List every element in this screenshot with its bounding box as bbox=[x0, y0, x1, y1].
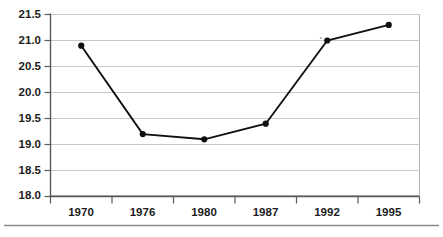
y-axis-ticks bbox=[45, 15, 51, 197]
line-chart: 21.5 21.0 20.5 20.0 19.5 19.0 18.5 18.0 … bbox=[0, 0, 443, 237]
y-axis-label-18-0: 18.0 bbox=[19, 189, 41, 201]
x-axis-label-1976: 1976 bbox=[130, 206, 156, 218]
y-axis-label-20-5: 20.5 bbox=[19, 60, 42, 72]
data-point-1976 bbox=[140, 131, 146, 137]
x-axis-tick-labels: 1970 1976 1980 1987 1992 1995 bbox=[68, 206, 402, 218]
chart-figure: 21.5 21.0 20.5 20.0 19.5 19.0 18.5 18.0 … bbox=[0, 0, 443, 237]
y-axis-label-19-0: 19.0 bbox=[19, 138, 41, 150]
x-axis-label-1970: 1970 bbox=[68, 206, 94, 218]
x-axis-label-1995: 1995 bbox=[376, 206, 402, 218]
plot-frame bbox=[51, 15, 420, 196]
x-axis-label-1980: 1980 bbox=[191, 206, 217, 218]
gridlines bbox=[51, 15, 420, 171]
y-axis-label-20-0: 20.0 bbox=[19, 86, 41, 98]
data-point-1980 bbox=[201, 136, 207, 142]
y-axis-label-19-5: 19.5 bbox=[19, 112, 42, 124]
x-axis-label-1992: 1992 bbox=[314, 206, 340, 218]
data-point-1992 bbox=[324, 37, 330, 43]
scan-artifact-speck bbox=[320, 37, 322, 39]
data-series-markers bbox=[78, 22, 392, 143]
y-axis-tick-labels: 21.5 21.0 20.5 20.0 19.5 19.0 18.5 18.0 bbox=[19, 8, 42, 201]
y-axis-label-18-5: 18.5 bbox=[19, 164, 42, 176]
data-point-1970 bbox=[78, 43, 84, 49]
data-point-1995 bbox=[386, 22, 392, 28]
x-axis-ticks bbox=[51, 197, 420, 204]
data-series-line bbox=[81, 25, 389, 139]
y-axis-label-21-5: 21.5 bbox=[19, 8, 42, 20]
data-point-1987 bbox=[263, 121, 269, 127]
x-axis-label-1987: 1987 bbox=[253, 206, 279, 218]
y-axis-label-21-0: 21.0 bbox=[19, 34, 41, 46]
